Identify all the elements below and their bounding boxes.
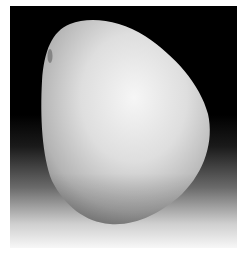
pebble-shadow — [41, 20, 210, 224]
pebble-dimple — [48, 49, 53, 63]
photo — [10, 6, 237, 248]
pebble-illustration — [10, 6, 237, 248]
